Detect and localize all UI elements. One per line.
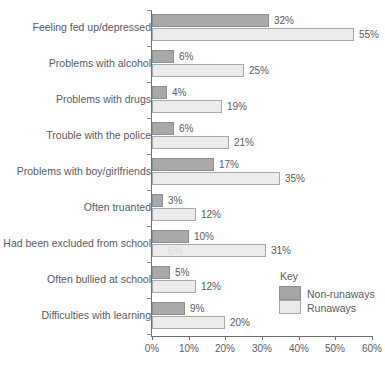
x-axis-tick [152,336,153,340]
bar-value-label: 21% [234,136,254,149]
bar-value-label: 10% [194,230,214,243]
bar-value-label: 6% [179,122,193,135]
bar-value-label: 12% [201,280,221,293]
bar-non-runaways [152,230,189,243]
x-axis-tick [262,336,263,340]
bar-value-label: 32% [274,14,294,27]
bar-runaways [152,100,222,113]
bar-value-label: 5% [175,266,189,279]
y-axis-tick [147,334,152,335]
bar-runaways [152,136,229,149]
bar-value-label: 20% [230,316,250,329]
bar-non-runaways [152,158,214,171]
x-axis-tick-label: 60% [350,343,385,354]
x-axis-tick [225,336,226,340]
legend-label-runaways: Runaways [307,302,356,314]
category-label: Often truanted [1,202,151,213]
y-axis-tick [147,118,152,119]
bar-value-label: 31% [271,244,291,257]
bar-runaways [152,316,225,329]
bar-value-label: 3% [168,194,182,207]
y-axis-tick [147,154,152,155]
bar-non-runaways [152,302,185,315]
y-axis-tick [147,10,152,11]
bar-runaways [152,64,244,77]
x-axis-tick [372,336,373,340]
legend-swatch-non-runaways [279,286,301,300]
x-axis-tick [299,336,300,340]
bar-non-runaways [152,122,174,135]
bar-non-runaways [152,50,174,63]
bar-value-label: 55% [359,28,379,41]
bar-non-runaways [152,14,269,27]
bar-value-label: 35% [285,172,305,185]
x-axis-tick [335,336,336,340]
category-label: Had been excluded from school [1,238,151,249]
bar-value-label: 4% [172,86,186,99]
bar-value-label: 9% [190,302,204,315]
legend-title: Key [280,270,298,282]
category-label: Difficulties with learning [1,310,151,321]
y-axis-tick [147,298,152,299]
category-label: Problems with alcohol [1,58,151,69]
legend-swatch-runaways [279,300,301,314]
category-label: Problems with boy/girlfriends [1,166,151,177]
bar-chart: Feeling fed up/depressed Problems with a… [0,0,385,373]
bar-value-label: 17% [219,158,239,171]
bar-value-label: 25% [249,64,269,77]
scan-artifact-value: 6% [168,244,182,257]
bar-non-runaways [152,266,170,279]
bar-runaways [152,208,196,221]
y-axis-tick [147,262,152,263]
bar-value-label: 6% [179,50,193,63]
y-axis-tick [147,226,152,227]
category-label: Feeling fed up/depressed [1,22,151,33]
category-label: Problems with drugs [1,94,151,105]
category-label: Often bullied at school [1,274,151,285]
bar-runaways [152,280,196,293]
category-label: Trouble with the police [1,130,151,141]
x-axis-tick [189,336,190,340]
bar-non-runaways [152,86,167,99]
y-axis-tick [147,82,152,83]
bar-value-label: 12% [201,208,221,221]
y-axis-tick [147,190,152,191]
bar-runaways [152,28,354,41]
bar-runaways [152,172,280,185]
legend-label-non-runaways: Non-runaways [307,288,375,300]
bar-non-runaways [152,194,163,207]
bar-value-label: 19% [227,100,247,113]
y-axis-tick [147,46,152,47]
